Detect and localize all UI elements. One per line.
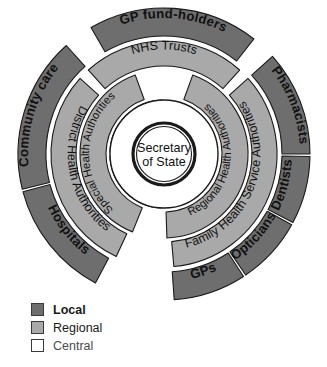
legend-label-regional: Regional	[53, 321, 102, 335]
legend-item-local: Local	[31, 301, 102, 318]
center-core: Secretary of State	[110, 100, 218, 208]
legend-swatch-regional	[31, 321, 44, 334]
center-label-line2: of State	[142, 155, 185, 169]
legend-item-central: Central	[31, 337, 102, 354]
diagram-page: HospitalsCommunity careGP fund-holdersPh…	[0, 0, 327, 367]
legend: Local Regional Central	[31, 301, 102, 355]
legend-item-regional: Regional	[31, 319, 102, 336]
legend-label-local: Local	[53, 303, 86, 317]
legend-swatch-central	[31, 339, 44, 352]
legend-label-central: Central	[53, 339, 93, 353]
center-label-line1: Secretary	[137, 141, 192, 155]
legend-swatch-local	[31, 303, 44, 316]
